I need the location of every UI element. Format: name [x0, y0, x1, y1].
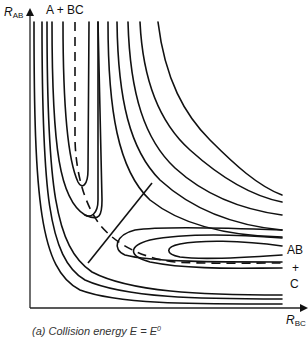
caption-prefix: (a) Collision energy — [32, 325, 130, 337]
figure-caption: (a) Collision energy E = E0 — [32, 325, 161, 337]
contour-right-4 — [140, 22, 282, 202]
reactants-label: A + BC — [46, 4, 84, 16]
caption-equals: = — [137, 325, 150, 337]
y-axis-label: RAB — [4, 6, 23, 20]
contour-right-3 — [128, 22, 282, 215]
contour-lines — [34, 22, 282, 304]
contour-product-b — [169, 241, 282, 258]
caption-superscript: 0 — [157, 325, 161, 332]
contour-outer-3 — [47, 22, 282, 295]
x-axis-label: RBC — [286, 314, 306, 328]
x-axis-symbol: R — [286, 313, 295, 327]
y-axis-subscript: AB — [13, 11, 24, 20]
x-axis-subscript: BC — [295, 319, 306, 328]
contour-right-2 — [117, 22, 282, 230]
y-axis-symbol: R — [4, 5, 13, 19]
caption-rhs: E — [150, 325, 157, 337]
products-label-c: C — [290, 278, 299, 290]
products-label-ab: AB — [287, 244, 303, 256]
products-label-plus: + — [292, 262, 299, 274]
